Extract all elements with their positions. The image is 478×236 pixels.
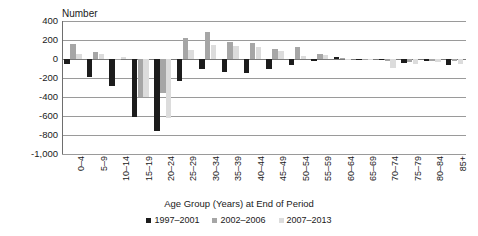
bar xyxy=(138,59,143,97)
x-axis-title: Age Group (Years) at End of Period xyxy=(0,198,478,209)
bar xyxy=(132,59,137,117)
y-axis-tick-label: -200 xyxy=(2,73,58,83)
bar xyxy=(435,59,440,62)
bar xyxy=(289,59,294,65)
bar xyxy=(334,57,339,59)
x-axis-tick-label: 25–29 xyxy=(189,156,198,181)
y-axis-tick-label: -400 xyxy=(2,92,58,102)
bar xyxy=(244,59,249,73)
bar xyxy=(278,51,283,59)
bars-layer xyxy=(62,21,466,154)
population-change-bar-chart: Number 4002000-200-400-600-800-1,000 0–4… xyxy=(0,0,478,236)
chart-legend: 1997–20012002–20062007–2013 xyxy=(0,215,478,225)
x-axis-tick-label: 80–84 xyxy=(436,156,445,181)
x-axis-tick-label: 40–44 xyxy=(257,156,266,181)
bar xyxy=(93,52,98,59)
bar xyxy=(407,59,412,62)
bar xyxy=(362,59,367,60)
bar xyxy=(311,59,316,61)
gridline xyxy=(62,154,466,155)
legend-item-label: 2007–2013 xyxy=(287,215,332,225)
y-axis-tick-label: 400 xyxy=(2,16,58,26)
legend-swatch-icon xyxy=(212,218,217,223)
x-axis-tick-label: 20–24 xyxy=(167,156,176,181)
bar xyxy=(256,47,261,59)
bar xyxy=(356,59,361,60)
y-axis-tick-labels: 4002000-200-400-600-800-1,000 xyxy=(0,21,58,154)
y-axis-tick-label: 0 xyxy=(2,54,58,64)
x-axis-tick-label: 35–39 xyxy=(234,156,243,181)
bar xyxy=(76,54,81,59)
bar xyxy=(154,59,159,131)
legend-item-label: 2002–2006 xyxy=(220,215,265,225)
x-axis-tick-label: 45–49 xyxy=(279,156,288,181)
y-axis-tick-label: 200 xyxy=(2,35,58,45)
bar xyxy=(272,49,277,59)
bar xyxy=(317,54,322,59)
plot-area xyxy=(62,21,466,154)
bar xyxy=(199,59,204,69)
bar xyxy=(401,59,406,63)
x-axis-tick-label: 60–64 xyxy=(347,156,356,181)
bar xyxy=(160,59,165,93)
bar xyxy=(233,46,238,59)
bar xyxy=(183,38,188,59)
bar xyxy=(205,32,210,59)
y-axis-title: Number xyxy=(62,8,98,19)
legend-item[interactable]: 1997–2001 xyxy=(146,215,199,225)
x-axis-tick-label: 10–14 xyxy=(122,156,131,181)
y-axis-tick-label: -1,000 xyxy=(2,149,58,159)
x-axis-tick-label: 0–4 xyxy=(77,156,86,171)
bar xyxy=(70,44,75,59)
bar xyxy=(379,59,384,60)
bar xyxy=(424,59,429,61)
bar xyxy=(323,55,328,59)
bar xyxy=(340,58,345,59)
x-axis-tick-label: 30–34 xyxy=(212,156,221,181)
bar xyxy=(413,59,418,64)
y-axis-tick-label: -600 xyxy=(2,111,58,121)
bar xyxy=(99,54,104,59)
legend-item-label: 1997–2001 xyxy=(154,215,199,225)
bar xyxy=(345,59,350,60)
x-axis-tick-label: 85+ xyxy=(459,156,468,171)
bar xyxy=(222,59,227,72)
x-axis-tick-label: 65–69 xyxy=(369,156,378,181)
x-axis-tick-label: 70–74 xyxy=(391,156,400,181)
bar xyxy=(429,59,434,61)
x-axis-tick-labels: 0–45–910–1415–1920–2425–2930–3435–3940–4… xyxy=(62,156,466,198)
bar xyxy=(121,57,126,59)
legend-swatch-icon xyxy=(146,218,151,223)
y-axis-tick-label: -800 xyxy=(2,130,58,140)
bar xyxy=(452,59,457,61)
bar xyxy=(211,45,216,59)
bar xyxy=(385,59,390,61)
x-axis-tick-label: 55–59 xyxy=(324,156,333,181)
legend-item[interactable]: 2007–2013 xyxy=(279,215,332,225)
bar xyxy=(115,59,120,60)
legend-swatch-icon xyxy=(279,218,284,223)
x-axis-tick-label: 5–9 xyxy=(100,156,109,171)
bar xyxy=(446,59,451,65)
bar xyxy=(64,59,69,64)
x-axis-tick-label: 75–79 xyxy=(414,156,423,181)
x-axis-tick-label: 50–54 xyxy=(302,156,311,181)
bar xyxy=(266,59,271,69)
bar xyxy=(188,50,193,60)
bar xyxy=(87,59,92,77)
bar xyxy=(166,59,171,118)
bar xyxy=(250,43,255,59)
bar xyxy=(390,59,395,68)
x-axis-tick-label: 15–19 xyxy=(145,156,154,181)
legend-item[interactable]: 2002–2006 xyxy=(212,215,265,225)
bar xyxy=(143,59,148,97)
bar xyxy=(109,59,114,86)
bar xyxy=(301,56,306,59)
bar xyxy=(295,47,300,59)
bar xyxy=(368,59,373,60)
bar xyxy=(458,59,463,64)
bar xyxy=(227,42,232,59)
bar xyxy=(177,59,182,81)
